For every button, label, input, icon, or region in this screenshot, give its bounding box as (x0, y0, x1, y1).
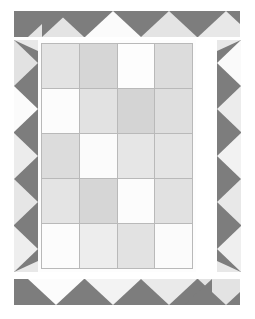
center-patch-grid (41, 43, 193, 269)
sawtooth-triangle-left (217, 86, 241, 132)
sawtooth-triangle-right (14, 86, 38, 132)
corner-bottom-left (14, 261, 38, 272)
patch-cell (80, 134, 118, 179)
corner-triangle (42, 11, 70, 37)
corner-triangle (14, 40, 38, 51)
sawtooth-triangle-up (141, 11, 197, 37)
sawtooth-triangle-up (198, 11, 240, 37)
patch-cell (80, 89, 118, 134)
patch-cell (42, 89, 80, 134)
corner-triangle (217, 261, 241, 272)
corner-top-left (14, 40, 38, 51)
sawtooth-triangle-left (217, 179, 241, 225)
patch-cell (42, 179, 80, 224)
patch-cell (80, 224, 118, 269)
patch-cell (80, 44, 118, 89)
corner-triangle (217, 40, 241, 51)
patch-cell (155, 224, 193, 269)
patch-cell (118, 224, 156, 269)
patch-cell (42, 134, 80, 179)
patch-cell (155, 44, 193, 89)
sawtooth-triangle-right (14, 133, 38, 179)
sawtooth-triangle-down (28, 279, 84, 305)
sawtooth-triangle-down (85, 279, 141, 305)
mitre-top-strip-left (42, 11, 70, 37)
right-sawtooth-border (217, 40, 241, 272)
patch-cell (42, 44, 80, 89)
corner-triangle (184, 279, 212, 305)
corner-bottom-right (217, 261, 241, 272)
corner-top-right (217, 40, 241, 51)
patch-cell (155, 179, 193, 224)
mitre-bottom-strip-right (184, 279, 212, 305)
patch-cell (118, 44, 156, 89)
sawtooth-triangle-up (85, 11, 141, 37)
patch-cell (155, 89, 193, 134)
corner-triangle (14, 261, 38, 272)
left-sawtooth-border (14, 40, 38, 272)
sawtooth-triangle-right (14, 179, 38, 225)
patch-cell (155, 134, 193, 179)
patch-cell (118, 134, 156, 179)
patch-cell (118, 89, 156, 134)
quilt-artwork (0, 0, 255, 319)
patch-cell (118, 179, 156, 224)
patch-cell (80, 179, 118, 224)
patch-cell (42, 224, 80, 269)
sawtooth-triangle-left (217, 133, 241, 179)
